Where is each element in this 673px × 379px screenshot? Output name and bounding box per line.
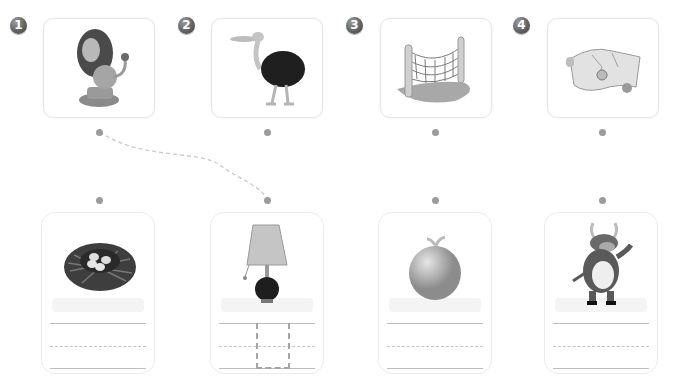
number-badge-2: 2 — [178, 17, 195, 34]
writing-line-bottom — [50, 368, 146, 369]
number-badge-1: 1 — [10, 17, 27, 34]
ostrich-icon — [228, 27, 313, 109]
lamp-icon — [241, 221, 295, 311]
letter-box-guide — [256, 323, 290, 369]
match-dot-top-4[interactable] — [599, 129, 606, 136]
word-card-melon — [378, 212, 492, 374]
match-dot-bottom-3[interactable] — [432, 197, 439, 204]
net-icon — [395, 31, 479, 107]
writing-line-top — [387, 323, 483, 324]
number-badge-3: 3 — [346, 17, 363, 34]
nest-icon — [62, 233, 138, 297]
word-card-lamp — [210, 212, 324, 374]
word-card-ox — [544, 212, 658, 374]
writing-line-bottom — [387, 368, 483, 369]
map-icon — [562, 37, 646, 101]
match-dot-top-1[interactable] — [96, 129, 103, 136]
picture-card-net — [380, 18, 492, 118]
number-badge-4: 4 — [513, 17, 530, 34]
writing-line-bottom — [553, 368, 649, 369]
match-dot-bottom-1[interactable] — [96, 197, 103, 204]
match-dot-bottom-2[interactable] — [264, 197, 271, 204]
picture-card-lion — [43, 18, 155, 118]
writing-line-middle — [553, 346, 649, 347]
lion-icon — [69, 25, 134, 111]
match-dot-top-3[interactable] — [432, 129, 439, 136]
writing-line-top — [553, 323, 649, 324]
match-dot-top-2[interactable] — [264, 129, 271, 136]
writing-line-middle — [50, 346, 146, 347]
match-dot-bottom-4[interactable] — [599, 197, 606, 204]
melon-icon — [405, 231, 465, 301]
faded-label — [52, 298, 144, 312]
picture-card-ostrich — [211, 18, 323, 118]
ox-icon — [567, 221, 639, 307]
writing-line-middle — [387, 346, 483, 347]
word-card-nest — [41, 212, 155, 374]
picture-card-map — [547, 18, 659, 118]
writing-line-top — [50, 323, 146, 324]
